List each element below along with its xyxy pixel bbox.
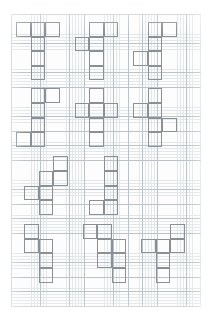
screenshot-page — [0, 0, 211, 320]
graph-paper-sheet — [11, 14, 201, 307]
